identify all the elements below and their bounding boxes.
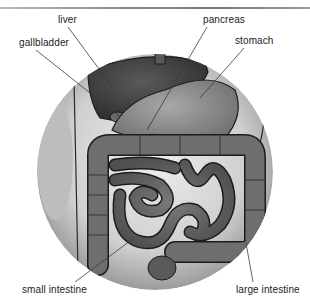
label-gallbladder: gallbladder [19,37,69,48]
large-intestine-leader-line [246,243,253,282]
rectum-organ [148,256,176,280]
label-pancreas: pancreas [203,14,245,25]
organs-circle [37,48,273,290]
label-stomach: stomach [235,35,274,46]
label-large-intestine: large intestine [236,284,300,295]
label-liver: liver [58,14,77,25]
label-small-intestine: small intestine [22,284,87,295]
